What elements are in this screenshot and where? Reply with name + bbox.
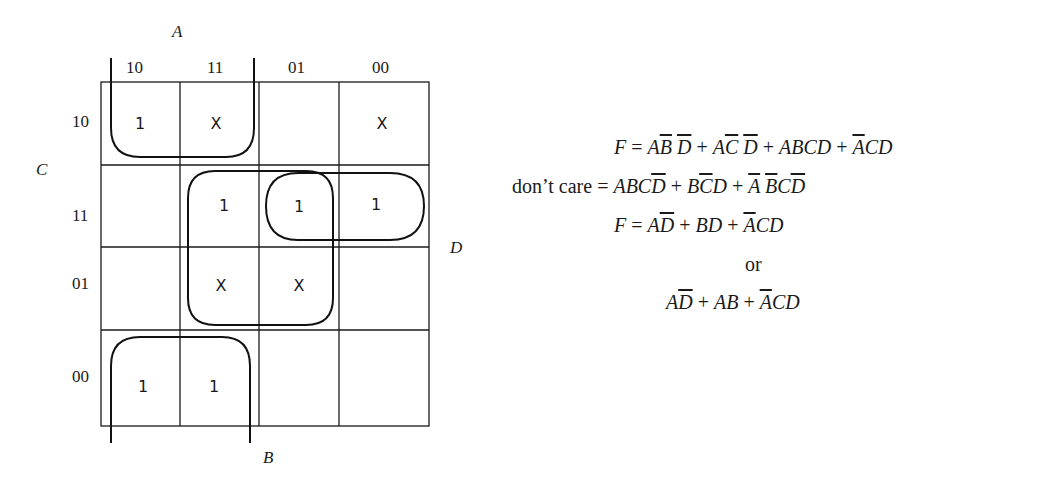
row-header: 00 bbox=[72, 367, 89, 387]
axis-label-d: D bbox=[450, 238, 462, 258]
column-header: 00 bbox=[372, 58, 389, 78]
axis-label-b: B bbox=[263, 448, 273, 468]
row-header: 11 bbox=[72, 206, 88, 226]
kmap-grid bbox=[0, 0, 1047, 484]
kmap-cell: 1 bbox=[123, 377, 163, 396]
axis-label-a: A bbox=[172, 22, 182, 42]
axis-label-c: C bbox=[36, 160, 47, 180]
kmap-cell: 1 bbox=[204, 196, 244, 215]
equation-f-simplified: F = AD + BD + ACD bbox=[614, 214, 783, 237]
column-header: 10 bbox=[126, 58, 143, 78]
row-header: 01 bbox=[72, 274, 89, 294]
kmap-cell: 1 bbox=[120, 114, 160, 133]
group-center bbox=[188, 171, 333, 325]
kmap-cell: 1 bbox=[279, 197, 319, 216]
equation-or: or bbox=[745, 253, 762, 276]
kmap-cell: 1 bbox=[356, 195, 396, 214]
row-header: 10 bbox=[72, 112, 89, 132]
column-header: 11 bbox=[207, 58, 223, 78]
kmap-cell: X bbox=[201, 276, 241, 295]
kmap-cell: X bbox=[279, 276, 319, 295]
column-header: 01 bbox=[288, 58, 305, 78]
equation-f-alternate: AD + AB + ACD bbox=[666, 291, 800, 314]
kmap-cell: X bbox=[362, 114, 402, 133]
kmap-cell: 1 bbox=[194, 377, 234, 396]
equation-f-original: F = AB D + AC D + ABCD + ACD bbox=[614, 136, 892, 159]
kmap-cell: X bbox=[196, 114, 236, 133]
equation-dont-care: don’t care = ABCD + BCD + A BCD bbox=[512, 175, 805, 198]
